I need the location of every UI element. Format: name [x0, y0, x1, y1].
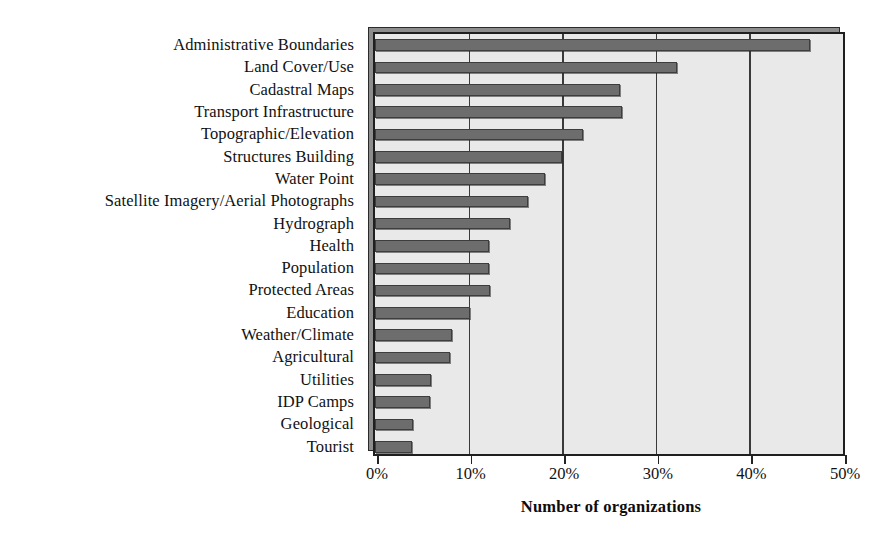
value-axis: 0%10%20%30%40%50%: [368, 455, 854, 475]
plot-area: [373, 32, 845, 456]
category-label: Transport Infrastructure: [0, 101, 362, 123]
bar: [375, 419, 413, 431]
bar-row: [375, 391, 430, 413]
bar: [375, 374, 431, 386]
category-label: Topographic/Elevation: [0, 123, 362, 145]
category-label: Water Point: [0, 168, 362, 190]
bar-row: [375, 190, 528, 212]
axis-tick-label: 20%: [549, 464, 579, 484]
bar: [375, 84, 620, 96]
category-label: Administrative Boundaries: [0, 34, 362, 56]
bar: [375, 352, 450, 364]
bar: [375, 396, 430, 408]
category-label: IDP Camps: [0, 391, 362, 413]
axis-tick: [751, 455, 753, 464]
bar: [375, 218, 510, 230]
bar-row: [375, 235, 489, 257]
axis-tick-label: 50%: [830, 464, 860, 484]
axis-tick: [377, 455, 379, 464]
bar-row: [375, 436, 412, 456]
category-label: Structures Building: [0, 146, 362, 168]
bar-row: [375, 346, 450, 368]
bar: [375, 129, 583, 141]
category-label: Satellite Imagery/Aerial Photographs: [0, 190, 362, 212]
bar: [375, 173, 545, 185]
category-label: Utilities: [0, 369, 362, 391]
bar-row: [375, 79, 620, 101]
horizontal-bar-chart: Administrative BoundariesLand Cover/UseC…: [0, 0, 891, 536]
bar-row: [375, 257, 489, 279]
bar-row: [375, 56, 677, 78]
x-axis-title: Number of organizations: [368, 497, 854, 517]
bar-row: [375, 34, 810, 56]
bar-row: [375, 413, 413, 435]
axis-tick: [658, 455, 660, 464]
bar-row: [375, 324, 452, 346]
axis-tick: [564, 455, 566, 464]
category-label: Weather/Climate: [0, 324, 362, 346]
category-label: Hydrograph: [0, 213, 362, 235]
category-label: Land Cover/Use: [0, 56, 362, 78]
bar-row: [375, 146, 562, 168]
bar: [375, 196, 528, 208]
bar-row: [375, 279, 490, 301]
category-label: Population: [0, 257, 362, 279]
axis-tick-label: 10%: [455, 464, 485, 484]
category-label: Geological: [0, 413, 362, 435]
category-label: Tourist: [0, 436, 362, 458]
category-label: Agricultural: [0, 346, 362, 368]
bar: [375, 285, 490, 297]
axis-tick-label: 40%: [736, 464, 766, 484]
axis-tick-label: 30%: [643, 464, 673, 484]
category-label: Education: [0, 302, 362, 324]
axis-tick-label: 0%: [366, 464, 388, 484]
axis-tick: [471, 455, 473, 464]
bar: [375, 39, 810, 51]
bar-row: [375, 168, 545, 190]
bar: [375, 263, 489, 275]
category-label: Protected Areas: [0, 279, 362, 301]
bar-row: [375, 369, 431, 391]
bar: [375, 62, 677, 74]
bar: [375, 106, 622, 118]
category-label: Health: [0, 235, 362, 257]
bar: [375, 240, 489, 252]
category-axis-labels: Administrative BoundariesLand Cover/UseC…: [0, 34, 362, 458]
bar-row: [375, 302, 470, 324]
bar-row: [375, 101, 622, 123]
bar-series: [375, 34, 843, 454]
plot-area-3d: [368, 27, 848, 459]
category-label: Cadastral Maps: [0, 79, 362, 101]
bar-row: [375, 213, 510, 235]
bar: [375, 151, 562, 163]
axis-tick: [845, 455, 847, 464]
bar: [375, 441, 412, 453]
bar-row: [375, 123, 583, 145]
bar: [375, 329, 452, 341]
bar: [375, 307, 470, 319]
